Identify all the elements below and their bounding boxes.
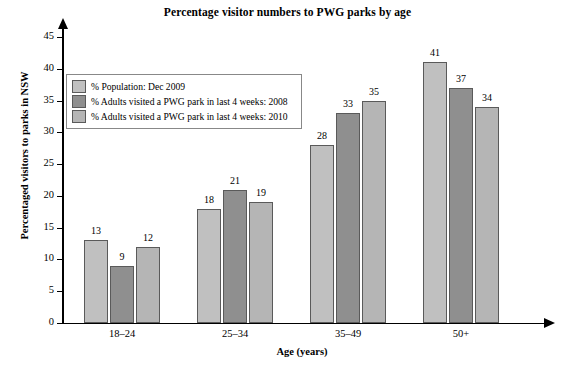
chart-legend: % Population: Dec 2009 % Adults visited …	[66, 74, 302, 129]
bar	[136, 247, 160, 323]
bar-value-label: 12	[132, 232, 164, 243]
x-category-label: 35–49	[318, 328, 378, 339]
y-tick-label: 10	[28, 252, 54, 263]
y-tick-label: 25	[28, 157, 54, 168]
y-tick-label: 15	[28, 221, 54, 232]
legend-label-population: % Population: Dec 2009	[91, 81, 185, 92]
legend-item: % Adults visited a PWG park in last 4 we…	[72, 109, 296, 124]
bar-value-label: 18	[193, 194, 225, 205]
y-tick-label: 35	[28, 94, 54, 105]
bar	[423, 62, 447, 323]
bar	[84, 240, 108, 323]
bar	[310, 145, 334, 323]
legend-swatch-population	[72, 80, 86, 93]
bar-value-label: 41	[419, 47, 451, 58]
y-tick-label: 0	[28, 316, 54, 327]
legend-label-2008: % Adults visited a PWG park in last 4 we…	[91, 96, 288, 107]
y-tick-label: 20	[28, 189, 54, 200]
bar	[249, 202, 273, 323]
bar	[449, 88, 473, 323]
x-category-label: 25–34	[205, 328, 265, 339]
bar-value-label: 34	[471, 92, 503, 103]
bar-value-label: 9	[106, 251, 138, 262]
legend-item: % Adults visited a PWG park in last 4 we…	[72, 94, 296, 109]
chart-title: Percentage visitor numbers to PWG parks …	[0, 6, 575, 18]
bar-value-label: 28	[306, 130, 338, 141]
y-tick-label: 40	[28, 62, 54, 73]
bar	[475, 107, 499, 323]
bar	[110, 266, 134, 323]
chart-container: Percentage visitor numbers to PWG parks …	[0, 0, 575, 371]
x-category-label: 18–24	[92, 328, 152, 339]
legend-swatch-2010	[72, 110, 86, 123]
bar-value-label: 33	[332, 98, 364, 109]
y-tick-label: 45	[28, 30, 54, 41]
y-axis-arrowhead	[58, 18, 68, 29]
bar-value-label: 21	[219, 175, 251, 186]
bar-value-label: 13	[80, 225, 112, 236]
x-category-label: 50+	[431, 328, 491, 339]
bar	[362, 101, 386, 323]
y-tick-label: 5	[28, 284, 54, 295]
legend-label-2010: % Adults visited a PWG park in last 4 we…	[91, 111, 288, 122]
x-axis-label: Age (years)	[62, 346, 542, 357]
legend-item: % Population: Dec 2009	[72, 79, 296, 94]
bar-value-label: 37	[445, 73, 477, 84]
y-tick-label: 30	[28, 125, 54, 136]
bar-value-label: 19	[245, 187, 277, 198]
legend-swatch-2008	[72, 95, 86, 108]
y-tick-mark	[57, 323, 62, 324]
bar	[336, 113, 360, 323]
bar-value-label: 35	[358, 86, 390, 97]
bar	[223, 190, 247, 323]
bar	[197, 209, 221, 323]
